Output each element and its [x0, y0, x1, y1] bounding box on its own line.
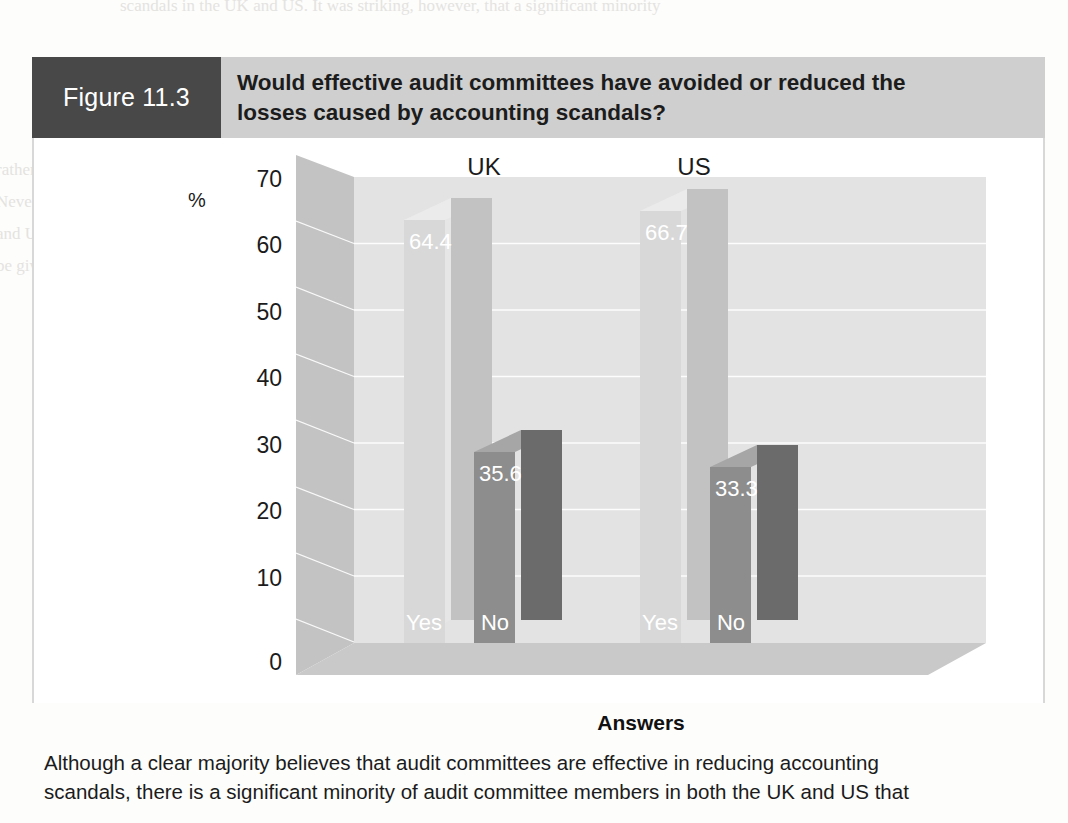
value-label-us-yes: 66.7 [645, 220, 688, 246]
group-label-uk: UK [444, 153, 524, 181]
answer-label-us-no: No [691, 610, 771, 636]
x-axis-title: Answers [296, 711, 986, 735]
y-tick-30: 30 [228, 432, 282, 459]
figure-number-box: Figure 11.3 [32, 57, 221, 138]
answer-label-uk-yes: Yes [384, 610, 464, 636]
figure-header: Figure 11.3 Would effective audit commit… [32, 57, 1045, 138]
y-tick-50: 50 [228, 299, 282, 326]
figure-caption-line-1: Although a clear majority believes that … [44, 748, 1034, 777]
y-tick-40: 40 [228, 365, 282, 392]
figure-caption: Although a clear majority believes that … [44, 748, 1034, 806]
answer-label-uk-no: No [455, 610, 535, 636]
value-label-uk-no: 35.6 [479, 461, 522, 487]
group-label-us: US [654, 153, 734, 181]
figure-title: Would effective audit committees have av… [237, 57, 1033, 138]
bleed-text-top: scandals in the UK and US. It was striki… [120, 0, 660, 16]
figure-caption-line-2: scandals, there is a significant minorit… [44, 777, 1034, 806]
value-label-us-no: 33.3 [715, 476, 758, 502]
figure-title-line-1: Would effective audit committees have av… [237, 68, 1033, 97]
y-tick-0: 0 [228, 649, 282, 676]
y-tick-60: 60 [228, 232, 282, 259]
chart-floor [296, 643, 986, 675]
bar-chart: 70 60 50 40 30 20 10 0 % UK US 64.4 35.6… [296, 155, 986, 703]
y-tick-10: 10 [228, 565, 282, 592]
y-axis: 70 60 50 40 30 20 10 0 [220, 155, 282, 703]
y-tick-70: 70 [228, 166, 282, 193]
figure-title-line-2: losses caused by accounting scandals? [237, 98, 1033, 127]
value-label-uk-yes: 64.4 [409, 229, 452, 255]
y-tick-20: 20 [228, 498, 282, 525]
chart-left-wall [296, 155, 354, 675]
figure-number-label: Figure 11.3 [63, 83, 190, 112]
figure-panel: 70 60 50 40 30 20 10 0 % UK US 64.4 35.6… [32, 138, 1045, 703]
answer-label-us-yes: Yes [620, 610, 700, 636]
y-axis-unit-label: % [188, 189, 206, 212]
